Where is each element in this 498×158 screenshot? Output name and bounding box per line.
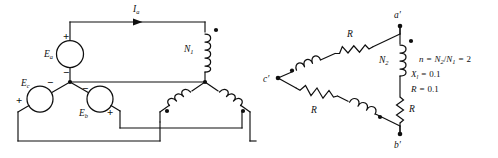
polarity-dot-lower-left [378, 115, 382, 119]
winding-secondary-left [160, 82, 205, 122]
left-top-wire-group [70, 22, 205, 40]
winding-secondary-right [205, 82, 256, 141]
wire-c-to-r-lower [278, 78, 296, 88]
annotation-leakage-reactance: Xl=0.1 [410, 69, 441, 80]
delta-upper-left-branch [278, 26, 400, 78]
delta-right-branch [397, 26, 407, 134]
figure-canvas: Ia + − Ea − + Ec [0, 0, 498, 158]
polarity-dot-n1 [214, 28, 218, 32]
arrowhead-ia [133, 19, 143, 26]
winding-n1-coil [205, 34, 211, 72]
wire-coil-to-r-upper [321, 54, 335, 60]
source-ec-label: Ec [20, 78, 30, 89]
winding-sec-right-coil [220, 90, 243, 106]
winding-upper-left-coil [296, 56, 321, 70]
wire-r-to-a-upper [373, 34, 400, 47]
wire-sec-right-stub1 [205, 82, 218, 91]
source-ec-circle [27, 86, 53, 112]
source-eb-plus: + [107, 106, 113, 118]
winding-n1 [205, 34, 211, 82]
vertex-label-a-prime: a′ [394, 10, 402, 20]
winding-sec-left-coil [168, 90, 191, 106]
source-ea-circle [57, 41, 84, 68]
wire-r-to-coil-lower [338, 96, 349, 101]
annotation-turns-ratio: n=N2/N1=2 [419, 54, 471, 65]
resistor-upper-left-label: R [346, 29, 353, 39]
polarity-dot-n2 [409, 39, 413, 43]
resistor-lower-left [296, 86, 338, 99]
source-ec-plus: + [16, 94, 22, 106]
source-ec-minus: − [47, 76, 53, 88]
wire-sec-left-stub1 [192, 82, 205, 91]
delta-lower-left-branch [278, 78, 400, 134]
parameter-annotations: n=N2/N1=2 Xl=0.1 R=0.1 [410, 54, 471, 94]
source-ea-minus: − [63, 66, 69, 78]
source-ec [18, 82, 160, 141]
current-label-ia: Ia [132, 4, 139, 15]
resistor-right-label: R [408, 104, 415, 114]
polarity-dot-sec-right [241, 109, 245, 113]
wire-ec-to-left [18, 106, 29, 113]
polarity-dot-sec-left [165, 109, 169, 113]
vertex-label-c-prime: c′ [263, 74, 270, 84]
vertex-dot-c-prime [276, 76, 281, 81]
source-ea-plus: + [63, 30, 69, 42]
winding-n2-label: N2 [378, 55, 389, 66]
winding-n1-label: N1 [183, 44, 194, 55]
source-eb [70, 82, 242, 128]
annotation-resistance: R=0.1 [410, 84, 439, 94]
winding-lower-left-coil [350, 99, 377, 115]
current-arrow-ia [133, 19, 143, 26]
circuit-diagram: Ia + − Ea − + Ec [0, 0, 498, 158]
polarity-dot-upper-left [290, 68, 294, 72]
resistor-upper-left [335, 45, 373, 54]
vertex-label-b-prime: b′ [394, 140, 402, 150]
source-eb-label: Eb [78, 108, 88, 119]
source-eb-minus: − [82, 82, 88, 94]
wire-neutral-to-ec [51, 82, 70, 93]
wire-c-to-coil-upper [278, 72, 293, 79]
source-ea [57, 41, 84, 83]
vertex-dot-a-prime [398, 24, 403, 29]
resistor-lower-left-label: R [310, 105, 317, 115]
resistor-right [397, 97, 404, 123]
winding-n2-coil [400, 45, 406, 76]
source-ea-label: Ea [43, 49, 53, 60]
vertex-dot-b-prime [398, 132, 403, 137]
